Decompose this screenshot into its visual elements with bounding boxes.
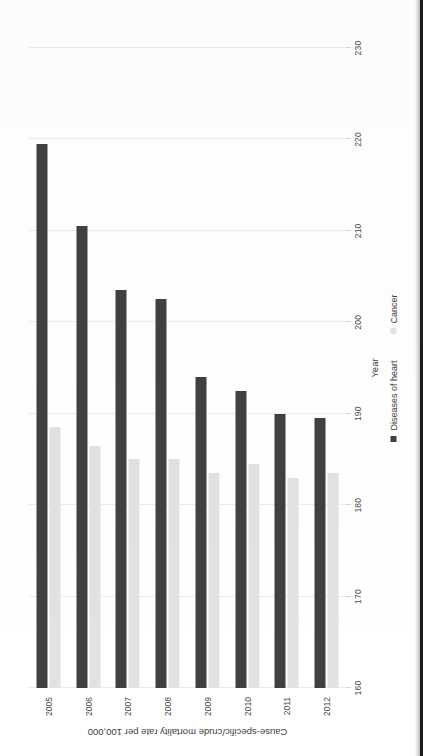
rotated-chart-frame: 230220210200190180170160 200520062007200…: [4, 0, 419, 756]
bar-cancer: [168, 459, 179, 688]
bar-cancer: [287, 478, 298, 688]
value-tick-label: 180: [352, 498, 362, 513]
bar-group: 2005: [28, 48, 68, 688]
value-tick-mark: [346, 230, 350, 231]
bar-cancer: [49, 427, 60, 688]
bar-diseases-of-heart: [76, 226, 87, 688]
category-tick-label: 2011: [281, 697, 291, 715]
bar-cancer: [208, 473, 219, 688]
scanned-page: 230220210200190180170160 200520062007200…: [0, 0, 423, 756]
value-tick-mark: [346, 687, 350, 688]
legend-swatch-icon: [390, 328, 396, 334]
category-tick-label: 2010: [242, 697, 252, 716]
value-tick-label: 200: [352, 315, 362, 330]
bar-cancer: [248, 464, 259, 688]
value-axis-title: Cause-specific/crude mortality rate per …: [28, 727, 346, 738]
value-tick-label: 230: [352, 41, 362, 56]
bar-diseases-of-heart: [274, 414, 285, 688]
legend-swatch-icon: [390, 436, 396, 442]
bar-group: 2009: [187, 48, 227, 688]
value-tick-label: 210: [352, 223, 362, 238]
bar-group: 2012: [306, 48, 346, 688]
bar-group: 2007: [108, 48, 148, 688]
bar-group: 2008: [147, 48, 187, 688]
chart-legend: Diseases of heartCancer: [388, 48, 398, 688]
value-tick-mark: [346, 138, 350, 139]
category-tick-label: 2007: [122, 697, 132, 716]
legend-item-label: Cancer: [388, 294, 398, 323]
legend-item[interactable]: Diseases of heart: [388, 360, 398, 441]
value-tick-mark: [346, 47, 350, 48]
legend-item-label: Diseases of heart: [388, 360, 398, 430]
value-tick-label: 220: [352, 132, 362, 147]
category-tick-label: 2012: [321, 697, 331, 716]
bar-cancer: [89, 446, 100, 688]
legend-item[interactable]: Cancer: [388, 294, 398, 334]
value-tick-mark: [346, 596, 350, 597]
bar-group: 2011: [267, 48, 307, 688]
category-tick-label: 2009: [202, 697, 212, 716]
plot-area: 230220210200190180170160 200520062007200…: [28, 48, 346, 688]
value-tick-label: 190: [352, 406, 362, 421]
bar-diseases-of-heart: [115, 290, 126, 688]
bar-group: 2006: [68, 48, 108, 688]
category-tick-label: 2005: [43, 697, 53, 716]
category-tick-label: 2008: [162, 697, 172, 716]
value-tick-mark: [346, 504, 350, 505]
bar-diseases-of-heart: [36, 144, 47, 688]
category-tick-label: 2006: [83, 697, 93, 716]
bar-cancer: [128, 459, 139, 688]
bar-diseases-of-heart: [314, 418, 325, 688]
bar-diseases-of-heart: [235, 391, 246, 688]
value-tick-mark: [346, 321, 350, 322]
bar-diseases-of-heart: [155, 299, 166, 688]
value-tick-label: 160: [352, 681, 362, 696]
bar-diseases-of-heart: [195, 377, 206, 688]
bar-chart: 230220210200190180170160 200520062007200…: [4, 0, 419, 756]
value-tick-label: 170: [352, 589, 362, 604]
bar-group: 2010: [227, 48, 267, 688]
category-axis-title: Year: [368, 48, 379, 688]
value-tick-mark: [346, 413, 350, 414]
bar-cancer: [327, 473, 338, 688]
